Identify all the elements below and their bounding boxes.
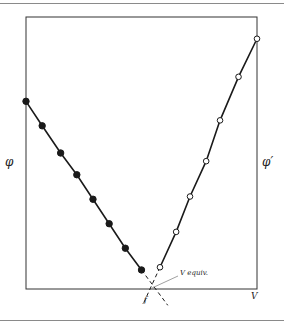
filled-data-point [138,267,144,273]
x-axis-label: V [251,291,258,301]
open-data-point [187,194,193,200]
open-data-point [203,158,209,164]
open-data-point [173,229,179,235]
filled-data-point [39,123,45,129]
filled-data-point [122,245,128,251]
filled-data-point [23,98,29,104]
left-axis-label: φ [5,155,13,169]
intersection-mark: ƒ [144,295,147,304]
right-axis-label: φ′ [262,155,273,169]
open-data-point [254,36,260,42]
filled-data-point [90,196,96,202]
filled-data-point [106,221,112,227]
open-data-point [157,264,163,270]
filled-data-point [57,150,63,156]
chart-plot [0,0,284,322]
open-data-point [236,74,242,80]
open-data-point [217,118,223,124]
filled-data-point [74,172,80,178]
equiv-leader-line [152,276,178,288]
equiv-annotation: V equiv. [180,269,208,277]
